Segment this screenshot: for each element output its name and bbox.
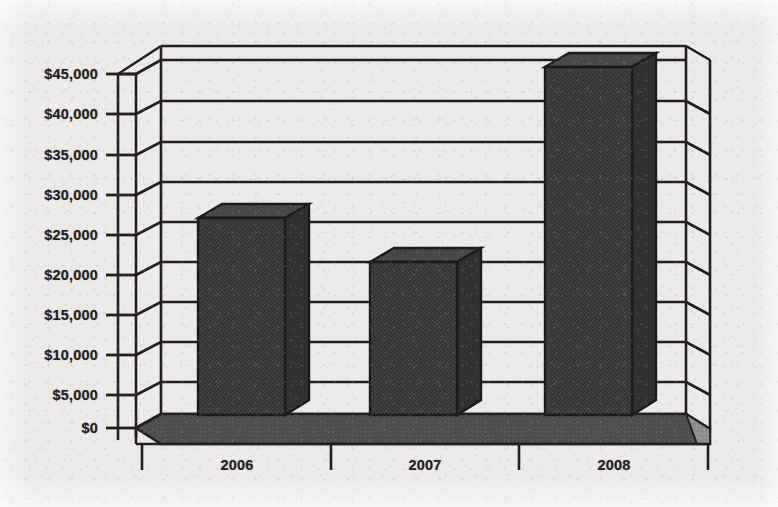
bar-2006 (198, 204, 309, 415)
y-tick-label: $20,000 (0, 267, 98, 283)
y-tick-label: $30,000 (0, 187, 98, 203)
y-tick-label: $15,000 (0, 307, 98, 323)
y-tick-label: $5,000 (0, 387, 98, 403)
chart-plot-area (0, 0, 778, 507)
bar-chart: $45,000 $40,000 $35,000 $30,000 $25,000 … (0, 0, 778, 507)
y-tick-label: $10,000 (0, 347, 98, 363)
bar-2007 (370, 248, 481, 415)
y-tick-label: $0 (0, 420, 98, 436)
right-depth-wall (686, 46, 710, 429)
bar-2008 (545, 53, 656, 415)
chart-floor (136, 414, 710, 444)
y-axis-ticks (106, 74, 136, 428)
x-tick-label-2008: 2008 (597, 457, 630, 473)
x-tick-label-2006: 2006 (220, 457, 253, 473)
y-tick-label: $45,000 (0, 66, 98, 82)
x-tick-label-2007: 2007 (408, 457, 441, 473)
y-tick-label: $25,000 (0, 227, 98, 243)
y-tick-label: $35,000 (0, 147, 98, 163)
y-tick-label: $40,000 (0, 106, 98, 122)
